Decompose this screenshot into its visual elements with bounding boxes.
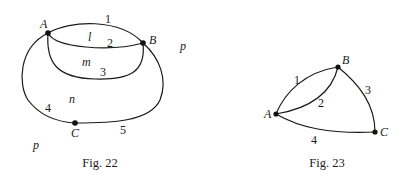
diagram-canvas: A B C 1 2 3 4 5 l m n p p Fig. 22 A B C … [0, 0, 405, 181]
fig22-edge-3-label: 3 [100, 65, 106, 79]
fig23-edge-2-label: 2 [318, 96, 324, 110]
fig22-vertex-b [140, 40, 146, 46]
fig23-vertex-c-label: C [380, 125, 389, 139]
fig23-edge-3-label: 3 [365, 83, 371, 97]
fig22-vertex-a [45, 30, 51, 36]
fig22-vertex-c-label: C [71, 126, 80, 140]
fig22-edge-3 [48, 33, 144, 79]
fig22-vertex-a-label: A [39, 17, 48, 31]
fig22-region-m-label: m [82, 55, 91, 69]
figure-23: A B C 1 2 3 4 Fig. 23 [263, 53, 389, 170]
fig22-edge-2-label: 2 [107, 36, 113, 50]
fig22-edge-2 [48, 33, 143, 48]
fig22-caption: Fig. 22 [82, 156, 117, 170]
fig23-vertex-c [372, 129, 377, 134]
fig22-edge-1 [48, 24, 143, 43]
fig22-edge-5-label: 5 [120, 123, 126, 137]
fig23-edge-4 [276, 114, 375, 132]
fig23-edge-1 [276, 67, 338, 114]
fig23-vertex-b-label: B [342, 53, 350, 67]
fig23-edge-1-label: 1 [294, 73, 300, 87]
fig23-vertex-a [273, 111, 278, 116]
fig23-caption: Fig. 23 [309, 156, 344, 170]
fig22-vertex-c [72, 120, 78, 126]
figure-22: A B C 1 2 3 4 5 l m n p p Fig. 22 [22, 12, 186, 170]
fig23-vertex-b [335, 64, 340, 69]
fig22-region-p-bottom-label: p [32, 138, 39, 152]
fig22-region-p-right-label: p [179, 39, 186, 53]
fig22-edge-4-label: 4 [45, 101, 51, 115]
fig23-edge-3 [338, 67, 375, 132]
fig22-vertex-b-label: B [149, 33, 157, 47]
fig22-region-n-label: n [69, 92, 75, 106]
fig23-edge-4-label: 4 [311, 133, 317, 147]
fig22-edge-1-label: 1 [105, 12, 111, 26]
fig23-vertex-a-label: A [263, 107, 272, 121]
fig23-edge-2 [276, 67, 338, 114]
fig22-region-l-label: l [88, 30, 92, 44]
